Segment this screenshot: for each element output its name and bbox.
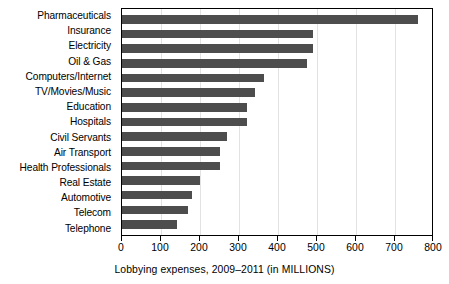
bar-row <box>122 27 432 42</box>
bar <box>122 132 227 141</box>
bar-row <box>122 115 432 130</box>
x-tick-mark <box>355 236 356 241</box>
bar-row <box>122 85 432 100</box>
category-label: Telephone <box>0 221 116 236</box>
x-tick-mark <box>238 236 239 241</box>
bar <box>122 206 188 215</box>
category-axis-labels: PharmaceuticalsInsuranceElectricityOil &… <box>0 8 116 236</box>
bar <box>122 191 192 200</box>
x-tick-label: 500 <box>307 242 324 253</box>
bar-row <box>122 71 432 86</box>
bar-row <box>122 159 432 174</box>
category-label: Health Professionals <box>0 160 116 175</box>
category-label: Hospitals <box>0 114 116 129</box>
category-label: Automotive <box>0 190 116 205</box>
x-tick-mark <box>160 236 161 241</box>
category-label: Computers/Internet <box>0 69 116 84</box>
category-label: Electricity <box>0 38 116 53</box>
bar <box>122 103 247 112</box>
plot-area <box>121 8 433 236</box>
bar-row <box>122 173 432 188</box>
x-tick-label: 100 <box>151 242 168 253</box>
bar-row <box>122 188 432 203</box>
bar-chart: PharmaceuticalsInsuranceElectricityOil &… <box>0 0 449 284</box>
category-label: Telecom <box>0 205 116 220</box>
x-axis-title: Lobbying expenses, 2009–2011 (in MILLION… <box>0 264 449 275</box>
x-tick-label: 700 <box>385 242 402 253</box>
category-label: Insurance <box>0 23 116 38</box>
bar-row <box>122 129 432 144</box>
category-label: TV/Movies/Music <box>0 84 116 99</box>
x-axis: 0100200300400500600700800 <box>121 236 433 258</box>
x-tick-mark <box>121 236 122 241</box>
x-tick-mark <box>277 236 278 241</box>
bar <box>122 44 313 53</box>
x-tick-label: 400 <box>268 242 285 253</box>
category-label: Pharmaceuticals <box>0 8 116 23</box>
bar-row <box>122 217 432 232</box>
x-tick-mark <box>394 236 395 241</box>
category-label: Civil Servants <box>0 130 116 145</box>
bar-row <box>122 144 432 159</box>
bar-row <box>122 100 432 115</box>
bar-row <box>122 41 432 56</box>
bar <box>122 15 418 24</box>
category-label: Oil & Gas <box>0 54 116 69</box>
x-tick-label: 600 <box>346 242 363 253</box>
x-tick-label: 0 <box>118 242 124 253</box>
bar <box>122 162 220 171</box>
bar <box>122 147 220 156</box>
bar <box>122 118 247 127</box>
x-tick-label: 200 <box>190 242 207 253</box>
category-label: Education <box>0 99 116 114</box>
bar-row <box>122 12 432 27</box>
x-tick-mark <box>316 236 317 241</box>
bar-row <box>122 203 432 218</box>
bar <box>122 59 307 68</box>
x-tick-mark <box>432 236 433 241</box>
bars-container <box>122 9 432 235</box>
bar <box>122 176 200 185</box>
x-tick-label: 800 <box>424 242 441 253</box>
category-label: Air Transport <box>0 145 116 160</box>
bar-row <box>122 56 432 71</box>
x-tick-label: 300 <box>229 242 246 253</box>
bar <box>122 220 177 229</box>
x-tick-mark <box>199 236 200 241</box>
category-label: Real Estate <box>0 175 116 190</box>
bar <box>122 74 264 83</box>
bar <box>122 88 255 97</box>
bar <box>122 30 313 39</box>
